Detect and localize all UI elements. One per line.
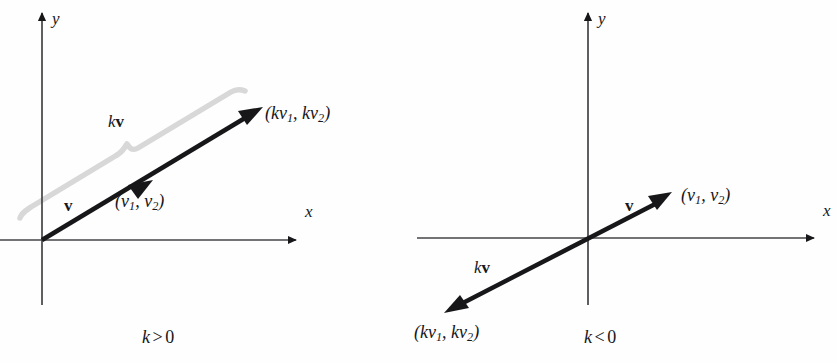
paren-close: ) — [473, 322, 479, 342]
kv-coordinate-label-left: (kv1, kv2) — [265, 104, 330, 125]
kv-vector-left — [42, 115, 250, 240]
paren-close: ) — [158, 191, 164, 211]
comp-1: kv — [420, 322, 436, 342]
y-axis-label-left: y — [52, 10, 60, 27]
kv-label-k-right: k — [474, 258, 482, 277]
left-panel-graphics — [0, 13, 296, 305]
separator: , — [293, 103, 302, 123]
figure-graphics — [0, 0, 837, 363]
v-label-v-right: v — [625, 196, 634, 215]
comp-1: v — [121, 191, 129, 211]
y-axis-label-right: y — [598, 10, 606, 27]
kv-v-line-right — [459, 201, 661, 305]
v-coordinate-label-left: (v1, v2) — [115, 192, 164, 213]
kv-coordinate-label-right: (kv1, kv2) — [414, 323, 479, 344]
separator: , — [442, 322, 451, 342]
kv-vector-label-right: kv — [474, 259, 490, 276]
kv-label-v-left: v — [116, 112, 125, 131]
x-axis-label-left: x — [305, 203, 313, 220]
separator: , — [135, 191, 144, 211]
kv-arrowhead-right — [444, 295, 469, 313]
figure-root: y x kv v (kv1, kv2) (v1, v2) k>0 y x v k… — [0, 0, 837, 363]
v-vector-label-right: v — [625, 197, 634, 214]
x-axis-label-right: x — [823, 202, 831, 219]
caption-operator: > — [151, 327, 166, 347]
comp-2: kv — [451, 322, 467, 342]
caption-right: k<0 — [584, 328, 617, 346]
caption-number: 0 — [607, 327, 617, 347]
paren-close: ) — [324, 103, 330, 123]
v-vector-label-left: v — [64, 197, 73, 214]
paren-close: ) — [724, 185, 730, 205]
caption-number: 0 — [165, 327, 175, 347]
caption-k: k — [142, 327, 151, 347]
comp-2: v — [144, 191, 152, 211]
kv-label-v-right: v — [482, 258, 491, 277]
kv-label-k-left: k — [108, 112, 116, 131]
separator: , — [701, 185, 710, 205]
caption-k: k — [584, 327, 593, 347]
caption-left: k>0 — [142, 328, 175, 346]
comp-2: kv — [302, 103, 318, 123]
comp-1: kv — [271, 103, 287, 123]
caption-operator: < — [593, 327, 608, 347]
v-coordinate-label-right: (v1, v2) — [681, 186, 730, 207]
comp-1: v — [687, 185, 695, 205]
v-label-v-left: v — [64, 196, 73, 215]
kv-vector-label-left: kv — [108, 113, 124, 130]
comp-2: v — [710, 185, 718, 205]
